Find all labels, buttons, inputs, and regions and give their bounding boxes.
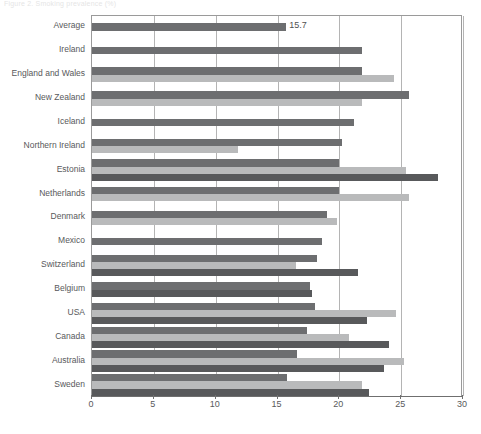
bar (92, 47, 362, 54)
bar (92, 91, 409, 98)
gridline-30 (463, 16, 464, 396)
bar (92, 374, 287, 381)
figure-caption: Figure 2. Smoking prevalence (%) (4, 0, 116, 7)
category-label-new-zealand: New Zealand (35, 93, 85, 102)
bar (92, 389, 369, 396)
x-tick-label-20: 20 (333, 399, 343, 409)
category-label-mexico: Mexico (58, 236, 85, 245)
bar (92, 67, 362, 74)
x-tick-label-10: 10 (210, 399, 220, 409)
value-axis-labels: 051015202530 (0, 399, 481, 415)
bar (92, 310, 396, 317)
bar (92, 269, 358, 276)
bar (92, 211, 327, 218)
bar (92, 167, 406, 174)
x-tick-label-0: 0 (88, 399, 93, 409)
bar-row (92, 159, 461, 181)
bar (92, 334, 349, 341)
category-label-canada: Canada (55, 332, 85, 341)
chart-container: Figure 2. Smoking prevalence (%) Average… (0, 0, 481, 434)
bar-row (92, 23, 461, 30)
category-label-switzerland: Switzerland (41, 260, 85, 269)
bar (92, 174, 438, 181)
bar (92, 317, 367, 324)
x-tick-label-30: 30 (457, 399, 467, 409)
x-tick-5 (153, 395, 154, 399)
category-label-northern-ireland: Northern Ireland (24, 141, 85, 150)
category-label-netherlands: Netherlands (39, 189, 85, 198)
bar-row (92, 238, 461, 245)
bar-row (92, 47, 461, 54)
bar (92, 23, 286, 30)
bar (92, 365, 384, 372)
category-label-average: Average (53, 21, 85, 30)
bar-row (92, 91, 461, 105)
bar (92, 381, 362, 388)
category-label-ireland: Ireland (59, 45, 85, 54)
category-label-belgium: Belgium (54, 284, 85, 293)
plot-area (91, 15, 462, 397)
bar (92, 139, 342, 146)
x-tick-label-25: 25 (395, 399, 405, 409)
bar (92, 358, 404, 365)
category-label-usa: USA (68, 308, 85, 317)
bar (92, 194, 409, 201)
bar (92, 146, 238, 153)
bar (92, 350, 297, 357)
bar-row (92, 303, 461, 325)
category-label-australia: Australia (52, 356, 85, 365)
x-tick-0 (91, 395, 92, 399)
x-tick-30 (462, 395, 463, 399)
bar (92, 327, 307, 334)
category-label-england-and-wales: England and Wales (12, 69, 85, 78)
bar (92, 262, 296, 269)
bar (92, 119, 354, 126)
bar (92, 341, 389, 348)
x-tick-10 (215, 395, 216, 399)
bar (92, 99, 362, 106)
bar (92, 238, 322, 245)
x-tick-15 (277, 395, 278, 399)
bar-row (92, 255, 461, 277)
category-label-sweden: Sweden (54, 380, 85, 389)
category-axis-labels: AverageIrelandEngland and WalesNew Zeala… (0, 15, 88, 397)
bar-row (92, 211, 461, 225)
bar (92, 218, 337, 225)
x-tick-label-5: 5 (150, 399, 155, 409)
bar-row (92, 327, 461, 349)
bar-row (92, 119, 461, 126)
x-tick-20 (338, 395, 339, 399)
bar-row (92, 139, 461, 153)
data-label-average: 15.7 (289, 21, 307, 30)
bar (92, 75, 394, 82)
x-tick-label-15: 15 (271, 399, 281, 409)
bar (92, 290, 312, 297)
category-label-iceland: Iceland (58, 117, 85, 126)
category-label-denmark: Denmark (51, 212, 85, 221)
bar-rows (92, 16, 461, 396)
bar (92, 303, 315, 310)
bar (92, 255, 317, 262)
bar (92, 187, 339, 194)
x-tick-25 (400, 395, 401, 399)
category-label-estonia: Estonia (57, 165, 85, 174)
bar-row (92, 67, 461, 81)
bar-row (92, 282, 461, 296)
bar-row (92, 374, 461, 396)
bar-row (92, 187, 461, 201)
bar (92, 159, 339, 166)
bar-row (92, 350, 461, 372)
bar (92, 282, 310, 289)
